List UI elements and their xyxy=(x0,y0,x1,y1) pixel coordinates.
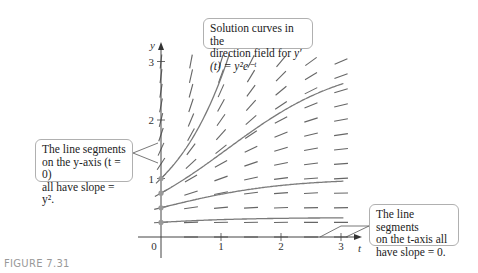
solution-curve xyxy=(161,218,343,223)
field-segment xyxy=(189,69,192,83)
field-segment xyxy=(214,176,227,181)
field-segment xyxy=(274,178,288,180)
field-segment xyxy=(190,55,193,69)
t-note-line-1: The line segments xyxy=(376,208,452,233)
title-callout: Solution curves in the direction field f… xyxy=(203,18,313,49)
t-tick-label: 1 xyxy=(218,240,224,252)
y-note-line-2: on the y-axis (t = 0) xyxy=(42,156,126,181)
y-note-line-1: The line segments xyxy=(42,143,126,156)
field-segment xyxy=(244,207,258,208)
field-segment xyxy=(334,148,348,150)
field-segment xyxy=(334,178,348,179)
y-axis-label: y xyxy=(149,39,155,51)
field-segment xyxy=(216,129,225,139)
field-segment xyxy=(305,73,317,80)
t-axis-arrow-icon xyxy=(354,234,362,240)
field-segment xyxy=(334,163,348,164)
field-segment xyxy=(217,114,225,125)
y-tick-label: 1 xyxy=(149,173,155,185)
field-segment xyxy=(246,115,257,124)
field-segment xyxy=(304,148,318,150)
y-axis-note-callout: The line segments on the y-axis (t = 0) … xyxy=(35,139,133,182)
field-segment xyxy=(216,145,227,154)
initial-value-dot xyxy=(158,191,163,196)
t-tick-label: 3 xyxy=(338,240,344,252)
field-segment xyxy=(215,160,227,167)
field-segment xyxy=(276,71,286,81)
t-tick-label: 2 xyxy=(278,240,284,252)
field-segment xyxy=(274,193,288,194)
y-axis-callout-pointer-2 xyxy=(133,153,158,163)
field-segment xyxy=(184,191,197,195)
field-segment xyxy=(246,100,255,110)
field-segment xyxy=(305,57,316,65)
field-segment xyxy=(185,175,197,182)
field-segment xyxy=(247,85,255,96)
t-note-line-3: have slope = 0. xyxy=(376,246,452,259)
y-tick-label: 2 xyxy=(149,114,155,126)
field-segment xyxy=(186,159,196,169)
y-axis-callout-pointer xyxy=(133,143,158,153)
field-segment xyxy=(188,114,193,127)
field-segment xyxy=(274,147,287,151)
field-segment xyxy=(304,133,318,136)
title-line-1: Solution curves in the xyxy=(210,22,306,47)
field-segment xyxy=(304,118,317,122)
field-segment xyxy=(334,134,348,136)
field-segment xyxy=(275,117,287,124)
field-segment xyxy=(189,84,193,98)
solution-curves xyxy=(161,54,343,222)
field-segment xyxy=(334,74,347,79)
field-segment xyxy=(244,162,257,167)
t-axis-label: t xyxy=(358,242,362,254)
field-segment xyxy=(334,119,348,122)
field-segment xyxy=(275,101,287,109)
field-segment xyxy=(304,163,318,165)
field-segment xyxy=(305,103,318,108)
field-segment xyxy=(189,99,193,112)
field-segment xyxy=(304,178,318,179)
initial-value-dot xyxy=(158,176,163,181)
y-note-line-3: all have slope = y². xyxy=(42,181,126,206)
field-segment xyxy=(335,59,348,65)
field-segment xyxy=(188,128,195,140)
field-segment xyxy=(218,99,225,111)
t-tick-label: 0 xyxy=(151,240,157,252)
field-segment xyxy=(276,86,287,95)
field-segment xyxy=(218,84,224,97)
figure-label: FIGURE 7.31 xyxy=(4,258,70,269)
y-tick-label: 3 xyxy=(149,56,155,68)
field-segment xyxy=(334,104,348,107)
field-segment xyxy=(334,89,347,93)
initial-value-dot xyxy=(158,220,163,225)
title-line-2: direction field for y′(t) = y²e⁻ᵗ xyxy=(210,47,306,72)
field-segment xyxy=(275,132,288,137)
field-segment xyxy=(244,192,258,194)
field-segment xyxy=(304,193,318,194)
y-axis-arrow-icon xyxy=(158,42,164,50)
direction-field-segments xyxy=(154,55,348,237)
t-note-line-2: on the t-axis all xyxy=(376,233,452,246)
field-segment xyxy=(214,207,228,208)
t-axis-note-callout: The line segments on the t-axis all have… xyxy=(369,204,459,246)
field-segment xyxy=(245,146,258,152)
field-segment xyxy=(184,207,198,209)
field-segment xyxy=(244,177,258,180)
field-segment xyxy=(305,88,318,94)
field-segment xyxy=(184,222,198,223)
field-segment xyxy=(274,162,288,165)
initial-value-dot xyxy=(158,205,163,210)
t-axis-callout-pointer xyxy=(320,226,369,237)
